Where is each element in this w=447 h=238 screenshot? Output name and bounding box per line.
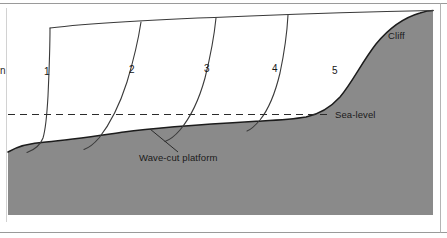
diagram-canvas <box>0 0 447 238</box>
sea-level-label: Sea-level <box>335 110 376 120</box>
stage-1-profile-line <box>27 28 50 153</box>
cliff-retreat-diagram: n 1 2 3 4 5 Cliff Sea-level Wave-cut pla… <box>0 0 447 238</box>
stage-label-4: 4 <box>272 64 278 74</box>
left-edge-cropped-glyph: n <box>0 66 6 76</box>
stage-label-3: 3 <box>204 64 210 74</box>
wave-cut-platform-label: Wave-cut platform <box>139 153 217 163</box>
cliff-label: Cliff <box>388 31 405 41</box>
stage-3-profile-line <box>165 18 216 142</box>
stage-4-profile-line <box>247 15 288 131</box>
stage-label-2: 2 <box>129 65 135 75</box>
stage-label-1: 1 <box>44 67 50 77</box>
stage-label-5: 5 <box>332 66 338 76</box>
stage-5-profile-line <box>50 11 433 29</box>
